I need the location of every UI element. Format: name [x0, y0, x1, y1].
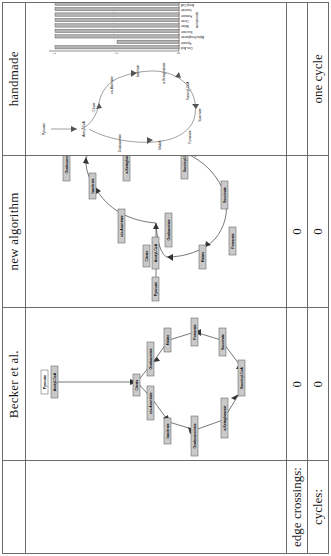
handmade-panel: Pyruvate Acetyl-CoA Citrate cis-Aconitat… — [33, 3, 279, 155]
node-label: Isocitrate — [166, 423, 170, 438]
node-label: Citrate — [92, 102, 96, 111]
chart-category-label: Alpha-Ketoglutarate — [180, 35, 203, 39]
node-citrate: Citrate — [143, 245, 150, 267]
node-label: Malate — [166, 335, 170, 346]
node-malate: Malate — [164, 328, 171, 352]
node-label: Pyruvate — [42, 122, 46, 134]
node-cisaconitate: cis-Aconitate — [118, 209, 125, 243]
chart-xlabel: compounds — [195, 11, 199, 27]
chart-bar — [55, 23, 179, 26]
becker-nodes: Pyruvate Acetyl-CoA Citrate — [41, 318, 245, 456]
node-malate: Malate — [199, 245, 206, 269]
metric-row-cycles: cycles: 0 0 one cycle — [308, 3, 329, 554]
chart-category-label: Isocitrate — [180, 8, 191, 12]
chart-bar — [55, 13, 179, 16]
table-header-row: Becker et al. new algorithm handmade — [3, 3, 26, 554]
node-label: Pyruvate — [154, 282, 158, 296]
chart-category-label: Malate — [180, 24, 188, 28]
node-label: Citrate — [145, 251, 149, 262]
table-graphs-row: Pyruvate Acetyl-CoA Citrate — [26, 3, 287, 554]
chart-bar — [55, 29, 179, 32]
node-label: Oxaloacetate — [149, 348, 153, 369]
column-header-handmade: handmade — [3, 3, 26, 156]
column-header-newalgo: new algorithm — [3, 155, 26, 308]
chart-bar — [117, 40, 179, 43]
node-oxaloacetate: Oxaloacetate — [165, 213, 172, 247]
metric-value-cycles-handmade: one cycle — [308, 3, 329, 156]
chart-category-label: Citric-Acid — [180, 46, 192, 50]
cell-graph-newalgo: Pyruvate Acetyl-CoA Citrate — [26, 155, 287, 308]
node-label: Fumarate — [188, 130, 192, 144]
node-succinate: Succinate — [219, 328, 226, 356]
node-fumarate: Fumarate — [229, 227, 236, 255]
reaction-count-bar-chart: Citric-AcidPyruvateAlpha-KetoglutarateSu… — [49, 3, 204, 59]
chart-category-label: Citrate — [180, 19, 188, 23]
chart-bar — [55, 3, 179, 5]
node-label: Succinyl-CoA — [240, 366, 244, 389]
chart-bar — [55, 18, 179, 21]
node-citrate: Citrate — [133, 374, 140, 396]
metric-label-cycles: cycles: — [308, 461, 329, 554]
node-label: Succinate — [223, 187, 227, 203]
figure-rotated-canvas: Becker et al. new algorithm handmade — [0, 0, 331, 556]
node-label: cis-Aconitate — [120, 216, 124, 237]
layout-comparison-table: Becker et al. new algorithm handmade — [2, 2, 329, 554]
column-header-becker: Becker et al. — [3, 308, 26, 461]
chart-category-label: Pyruvate — [180, 41, 191, 45]
chart-category-label: Acetyl-CoA — [181, 3, 194, 6]
node-oxalosuccinate: Oxalosuccinate — [63, 156, 70, 182]
handmade-edges — [51, 71, 196, 142]
node-label: Succinate — [198, 108, 202, 122]
node-label: a-Ketoglutarate — [162, 62, 166, 83]
node-label: a-Ketoglutarate — [223, 405, 227, 430]
chart-category-label: Succinate — [180, 30, 192, 34]
node-acetylcoa: Acetyl-CoA — [51, 366, 58, 398]
node-oxaloacetate: Oxaloacetate — [147, 342, 154, 376]
newalgo-canvas: Pyruvate Acetyl-CoA Citrate — [33, 156, 279, 308]
newalgo-nodes: Pyruvate Acetyl-CoA Citrate — [63, 156, 236, 302]
node-succinylcoa: Succinyl-CoA — [181, 156, 188, 180]
node-pyruvate: Pyruvate — [41, 370, 48, 394]
cell-graph-becker: Pyruvate Acetyl-CoA Citrate — [26, 308, 287, 461]
node-cisaconitate: cis-Aconitate — [147, 386, 154, 420]
node-label: Oxaloacetate — [167, 220, 171, 241]
handmade-arrowheads — [71, 70, 199, 144]
node-label: Succinyl-CoA — [186, 80, 190, 100]
new-algorithm-layout-graph: Pyruvate Acetyl-CoA Citrate — [33, 156, 279, 308]
node-acetylcoa: Acetyl-CoA — [152, 237, 159, 269]
node-label: Succinate — [221, 334, 225, 350]
becker-canvas: Pyruvate Acetyl-CoA Citrate — [33, 308, 279, 460]
node-label: Succinyl-CoA — [183, 156, 187, 173]
node-label: Oxaloacetate — [118, 133, 122, 152]
node-label: Fumarate — [231, 234, 235, 249]
node-ketoglutarate: a-Ketoglutarate — [123, 156, 130, 182]
node-label: Isocitrate — [91, 179, 95, 194]
node-label: Citrate — [135, 380, 139, 391]
node-fumarate: Fumarate — [191, 318, 198, 346]
node-ketoglutarate: a-Ketoglutarate — [221, 398, 228, 438]
cell-graph-handmade: Pyruvate Acetyl-CoA Citrate cis-Aconitat… — [26, 3, 287, 156]
metric-value-cycles-newalgo: 0 — [308, 155, 329, 308]
node-isocitrate: Isocitrate — [89, 173, 96, 199]
node-oxalosuccinate: Oxalosuccinate — [191, 416, 198, 456]
node-isocitrate: Isocitrate — [164, 418, 171, 444]
node-label: Fumarate — [193, 324, 197, 339]
node-label: cis-Aconitate — [110, 76, 114, 94]
metric-value-edge-crossings-newalgo: 0 — [287, 155, 308, 308]
chart-bar — [55, 34, 179, 37]
corner-cell — [3, 461, 26, 554]
node-label: a-Ketoglutarate — [125, 156, 129, 174]
node-succinate: Succinate — [221, 181, 228, 209]
node-label: Acetyl-CoA — [53, 372, 57, 391]
metric-value-cycles-becker: 0 — [308, 308, 329, 461]
metric-label-edge-crossings: edge crossings: — [287, 461, 308, 554]
chart-category-label: Fumarate — [180, 13, 192, 17]
node-label: Oxalosuccinate — [193, 423, 197, 448]
metric-row-edge-crossings: edge crossings: 0 0 — [287, 3, 308, 554]
chart-bar — [55, 45, 179, 48]
chart-bar — [55, 7, 179, 10]
node-label: Isocitrate — [136, 64, 140, 77]
node-label: Malate — [201, 252, 205, 263]
node-label: cis-Aconitate — [149, 392, 153, 413]
node-label: Oxalosuccinate — [65, 156, 69, 174]
